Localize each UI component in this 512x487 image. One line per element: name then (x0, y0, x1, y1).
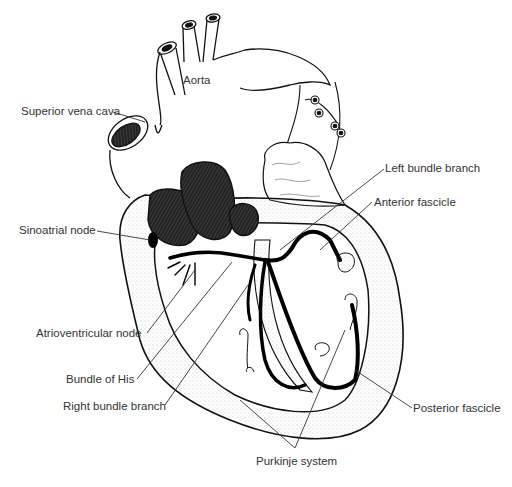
label-bundle-of-his: Bundle of His (66, 373, 134, 386)
label-superior-vena-cava: Superior vena cava (21, 105, 120, 118)
atrial-chambers (148, 162, 258, 245)
label-right-bundle-branch: Right bundle branch (63, 400, 166, 413)
label-left-bundle-branch: Left bundle branch (385, 162, 480, 175)
label-anterior-fascicle: Anterior fascicle (374, 196, 456, 209)
label-posterior-fascicle: Posterior fascicle (413, 402, 501, 415)
label-purkinje-system: Purkinje system (256, 455, 337, 468)
aorta-body (156, 49, 330, 125)
label-aorta: Aorta (183, 74, 211, 87)
superior-vena-cava-vessel (102, 109, 162, 198)
label-atrioventricular-node: Atrioventricular node (36, 327, 141, 340)
label-sinoatrial-node: Sinoatrial node (19, 224, 96, 237)
